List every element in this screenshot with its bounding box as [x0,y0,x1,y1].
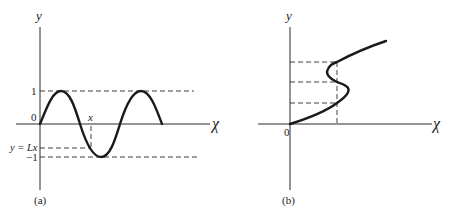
panel-b-caption: (b) [282,194,295,207]
panel-a-caption: (a) [34,194,47,207]
panel-a-origin-label: 0 [31,111,37,123]
panel-a-y-axis-label: y [34,8,42,23]
panel-b-s-curve [290,41,386,124]
panel-a-x-marker-label: x [87,111,93,123]
panel-b-y-axis-label: y [284,8,292,23]
panel-a: y 1 0 x y = Lx −1 χ (a) [9,8,220,207]
panel-b-x-axis-label: χ [431,115,441,133]
panel-a-tick-one: 1 [31,85,37,97]
panel-a-tick-minus-one: −1 [26,151,38,163]
panel-b: y 0 χ (b) [258,8,441,207]
panel-b-origin-label: 0 [284,126,290,138]
panel-a-x-axis-label: χ [210,115,220,133]
figure: y 1 0 x y = Lx −1 χ (a) y 0 χ (b) [0,0,453,218]
